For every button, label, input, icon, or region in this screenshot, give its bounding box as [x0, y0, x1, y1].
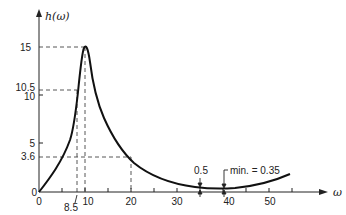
y-axis-arrow-icon: [36, 9, 42, 17]
chart: 15 10.5 10 5 3.6 0 0 10 20 30 40 50 8.5 …: [0, 0, 346, 215]
y-tick-3.6: 3.6: [21, 151, 35, 162]
y-tick-10: 10: [24, 91, 36, 102]
guide-lines: [39, 47, 131, 192]
x-tick-30: 30: [171, 196, 183, 207]
x-tick-0: 0: [36, 196, 42, 207]
x-axis-label: ω: [333, 186, 342, 199]
y-axis-label: h(ω): [45, 10, 70, 23]
x-tick-10: 10: [82, 196, 94, 207]
x-annot-8.5: 8.5: [64, 202, 78, 213]
x-axis-arrow-icon: [319, 189, 328, 195]
y-tick-15: 15: [20, 42, 32, 53]
x-tick-50: 50: [264, 196, 276, 207]
x-ticks: [62, 188, 292, 192]
annot-min-label: min. = 0.35: [230, 165, 280, 176]
y-tick-5: 5: [29, 138, 35, 149]
annot-min-arrows: [222, 170, 228, 197]
y-ticks: [39, 95, 43, 143]
x-tick-20: 20: [125, 196, 137, 207]
x-tick-40: 40: [223, 196, 235, 207]
annot-0.5-label: 0.5: [194, 165, 208, 176]
